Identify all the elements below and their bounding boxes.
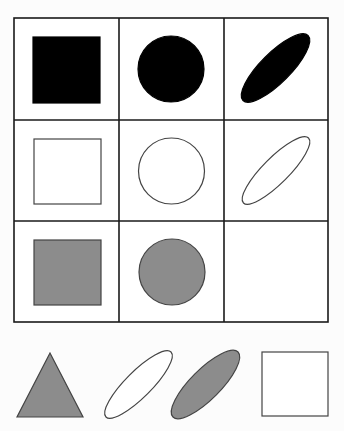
cell-1-1-white-circle-icon bbox=[139, 138, 205, 204]
cell-2-0-gray-square-icon bbox=[34, 240, 101, 305]
option-3-gray-ellipse-icon[interactable] bbox=[162, 341, 248, 427]
cell-0-1-black-circle-icon bbox=[138, 36, 204, 102]
cell-2-1-gray-circle-icon bbox=[139, 239, 205, 305]
matrix-puzzle-svg bbox=[0, 0, 344, 431]
option-4-white-square-icon[interactable] bbox=[262, 352, 328, 416]
option-2-white-ellipse-icon[interactable] bbox=[97, 343, 180, 426]
answer-options bbox=[17, 341, 328, 427]
missing-cell bbox=[225, 222, 327, 321]
cell-1-0-white-square-icon bbox=[34, 139, 101, 204]
cell-0-0-black-square-icon bbox=[33, 37, 100, 103]
option-1-gray-triangle-icon[interactable] bbox=[17, 353, 83, 417]
puzzle-figure bbox=[0, 0, 344, 431]
grid-cells bbox=[33, 25, 327, 321]
